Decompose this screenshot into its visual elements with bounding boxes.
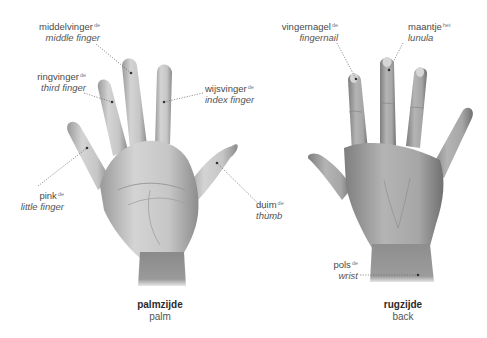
label-middle-finger: middelvingerde middle finger (22, 21, 100, 43)
hands-illustration (0, 0, 487, 338)
label-thumb: duimde thumb (256, 199, 284, 221)
label-little-finger: pinkde little finger (4, 190, 64, 212)
hand-diagram: middelvingerde middle finger ringvingerd… (0, 0, 487, 338)
label-fingernail: vingernagelde fingernail (268, 21, 338, 43)
label-lunula: maantjehet lunula (408, 21, 450, 43)
back-ring-finger (348, 74, 368, 152)
palm-ring-finger (98, 79, 128, 156)
label-third-finger: ringvingerde third finger (18, 71, 86, 93)
palm-body (100, 141, 199, 258)
label-wrist: polsde wrist (320, 259, 358, 281)
palm-wrist (138, 252, 186, 286)
caption-back: rugzijde back (368, 299, 438, 323)
back-middle-finger (380, 58, 396, 146)
palm-middle-finger (122, 59, 147, 149)
label-index-finger: wijsvingerde index finger (205, 83, 254, 105)
back-body (344, 143, 443, 248)
back-wrist (370, 244, 434, 282)
palm-index-finger (155, 65, 172, 147)
caption-palm: palmzijde palm (125, 299, 195, 323)
back-hand (308, 57, 473, 282)
